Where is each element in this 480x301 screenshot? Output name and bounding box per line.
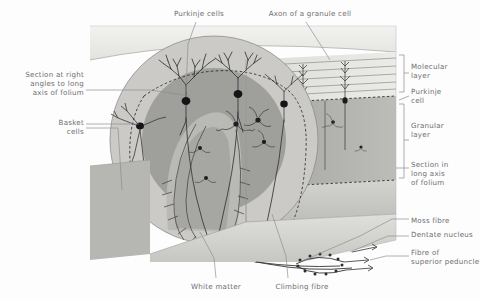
label-molecular-layer: Molecular layer: [411, 62, 479, 80]
label-granular-layer: Granular layer: [411, 121, 479, 139]
moss-fibre-path: [256, 262, 352, 269]
label-section-long-axis: Section in long axis of folium: [411, 160, 479, 188]
white-matter-slab: [90, 160, 150, 260]
label-purkinje-cells: Purkinje cells: [156, 9, 242, 18]
molecular-layer-bracket: [399, 55, 404, 92]
label-dentate-nucleus: Dentate nucleus: [411, 230, 480, 239]
purkinje-cell-leader: [399, 96, 409, 100]
label-section-right-angles: Section at right angles to long axis of …: [6, 70, 84, 98]
figure-canvas: Purkinje cells Axon of a granule cell Se…: [0, 0, 480, 301]
label-basket-cells: Basket cells: [6, 118, 84, 136]
layer-brackets: [399, 55, 409, 178]
cerebellum-block-diagram: [0, 0, 480, 301]
label-fibre-superior-peduncle: Fibre of superior peduncle: [411, 248, 480, 266]
label-white-matter: White matter: [180, 282, 252, 291]
label-purkinje-cell: Purkinje cell: [411, 87, 479, 105]
label-climbing-fibre: Climbing fibre: [262, 282, 342, 291]
granular-layer-bracket: [399, 104, 404, 178]
label-moss-fibre: Moss fibre: [411, 216, 479, 225]
label-axon-of-granule-cell: Axon of a granule cell: [252, 9, 368, 18]
